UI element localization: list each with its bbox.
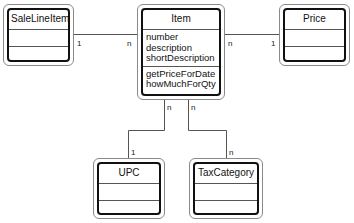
mult-saleline-side: 1 xyxy=(77,39,81,48)
methods-section: getPriceForDate howMuchForQty xyxy=(143,67,219,95)
attribute: number xyxy=(146,32,216,43)
mult-item-side-right: n xyxy=(228,39,232,48)
class-name: UPC xyxy=(99,164,159,184)
attribute: shortDescription xyxy=(146,53,216,64)
mult-item-tax-side: n xyxy=(191,103,195,112)
class-name: SaleLineItem xyxy=(9,10,68,30)
attributes-section xyxy=(285,30,344,47)
mult-item-side-left: n xyxy=(127,39,131,48)
class-name: Item xyxy=(143,10,219,30)
mult-tax-side: n xyxy=(229,148,233,157)
class-price[interactable]: Price xyxy=(279,4,350,66)
mult-price-side: 1 xyxy=(271,39,275,48)
methods-section xyxy=(9,47,68,60)
attributes-section: number description shortDescription xyxy=(143,30,219,67)
attributes-section xyxy=(99,184,159,201)
attributes-section xyxy=(195,184,257,201)
mult-upc-side: 1 xyxy=(131,148,135,157)
class-item[interactable]: Item number description shortDescription… xyxy=(137,4,225,100)
class-tax-category[interactable]: TaxCategory xyxy=(189,158,263,219)
methods-section xyxy=(99,201,159,213)
class-saleline-item[interactable]: SaleLineItem xyxy=(3,4,74,66)
method: howMuchForQty xyxy=(146,79,216,90)
class-upc[interactable]: UPC xyxy=(93,158,165,219)
methods-section xyxy=(195,201,257,213)
class-name: TaxCategory xyxy=(195,164,257,184)
mult-item-upc-side: n xyxy=(167,103,171,112)
class-name: Price xyxy=(285,10,344,30)
attributes-section xyxy=(9,30,68,47)
methods-section xyxy=(285,47,344,60)
